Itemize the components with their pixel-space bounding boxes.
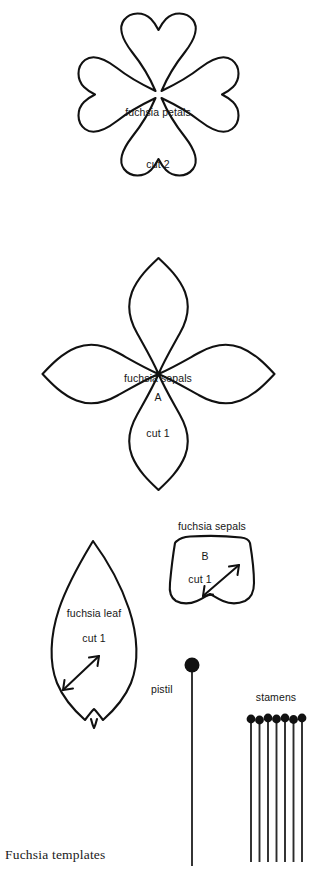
- stamen-item: [298, 714, 307, 862]
- stamen-head-icon: [289, 715, 298, 724]
- sheet-caption: Fuchsia templates: [5, 847, 106, 863]
- petals-outline: [79, 14, 239, 176]
- stamens-part[interactable]: [247, 714, 307, 862]
- sepals-a-title-label: fuchsia sepals: [124, 373, 192, 384]
- sepals-b-title-label: fuchsia sepals: [178, 521, 246, 532]
- sepals-b-outline: [170, 536, 254, 603]
- sepals-a-quantity-label: cut 1: [146, 428, 169, 439]
- leaf-base-nub: [91, 719, 97, 728]
- stamen-head-icon: [281, 714, 290, 723]
- stamen-item: [289, 715, 298, 862]
- leaf-quantity-label: cut 1: [82, 633, 105, 644]
- pistil-part[interactable]: [185, 658, 200, 867]
- leaf-title-label: fuchsia leaf: [67, 608, 121, 619]
- sepals-b-quantity-label: cut 1: [188, 574, 211, 585]
- stamen-item: [264, 714, 273, 862]
- sepals-a-letter-label: A: [154, 392, 161, 403]
- stamen-item: [281, 714, 290, 862]
- stamen-head-icon: [255, 716, 264, 725]
- petals-quantity-label: cut 2: [146, 159, 169, 170]
- fuchsia-petals-shape[interactable]: [79, 14, 239, 176]
- pistil-head-icon: [185, 658, 200, 673]
- stamen-item: [247, 715, 256, 862]
- sepals-b-letter-label: B: [201, 551, 208, 562]
- stamen-head-icon: [272, 715, 281, 724]
- stamen-head-icon: [298, 714, 307, 723]
- stamen-head-icon: [247, 715, 256, 724]
- stamen-head-icon: [264, 714, 273, 723]
- leaf-outline: [52, 541, 137, 720]
- templates-drawing: [0, 0, 322, 880]
- stamens-label: stamens: [256, 692, 296, 703]
- pistil-label: pistil: [151, 684, 173, 695]
- template-sheet: fuchsia petals cut 2 fuchsia sepals A cu…: [0, 0, 322, 880]
- stamen-item: [272, 715, 281, 862]
- petals-title-label: fuchsia petals: [125, 107, 191, 118]
- fuchsia-sepals-b-shape[interactable]: [170, 536, 254, 603]
- stamen-item: [255, 716, 264, 862]
